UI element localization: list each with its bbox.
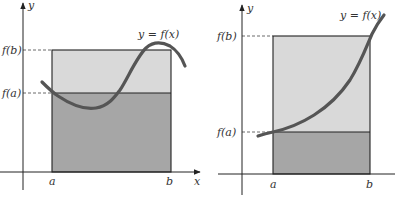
upper-rectangle-region bbox=[273, 36, 370, 132]
right-diagram: y y = f(x) f(b) f(a) a b bbox=[216, 2, 395, 195]
curve-label: y = f(x) bbox=[137, 28, 179, 41]
fb-tick-label: f(b) bbox=[216, 30, 237, 43]
a-tick-label: a bbox=[270, 178, 277, 191]
left-diagram: y x y = f(x) f(b) f(a) a b bbox=[0, 0, 201, 190]
a-tick-label: a bbox=[49, 175, 56, 188]
diagram-canvas: y x y = f(x) f(b) f(a) a b y y = f(x) f(… bbox=[0, 0, 395, 202]
fa-tick-label: f(a) bbox=[1, 87, 21, 100]
fa-tick-label: f(a) bbox=[216, 126, 236, 139]
lower-rectangle-region bbox=[52, 93, 171, 172]
b-tick-label: b bbox=[166, 175, 173, 188]
curve-label: y = f(x) bbox=[339, 9, 381, 22]
upper-rectangle-region bbox=[52, 50, 171, 93]
x-axis-label: x bbox=[194, 175, 201, 188]
fb-tick-label: f(b) bbox=[1, 44, 22, 57]
y-axis-label: y bbox=[246, 2, 254, 15]
y-axis-label: y bbox=[27, 0, 35, 12]
lower-rectangle-region bbox=[273, 132, 370, 174]
b-tick-label: b bbox=[366, 178, 373, 191]
